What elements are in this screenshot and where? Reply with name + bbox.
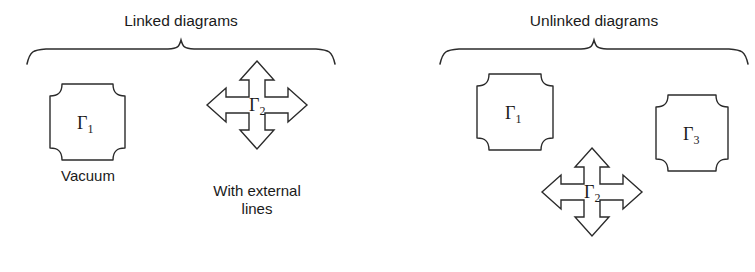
caption-with-external-line1: With external <box>213 182 301 199</box>
brace-unlinked <box>440 40 748 64</box>
caption-vacuum: Vacuum <box>61 167 115 184</box>
diagram-linked-gamma1: Γ1 <box>50 84 125 160</box>
group-title-linked: Linked diagrams <box>124 12 238 29</box>
group-title-unlinked: Unlinked diagrams <box>530 12 659 29</box>
figure-canvas: Linked diagrams Γ1 Vacuum Γ2 With extern… <box>0 0 755 272</box>
diagram-unlinked-gamma2: Γ2 <box>542 148 642 236</box>
group-linked: Linked diagrams Γ1 Vacuum Γ2 With extern… <box>27 12 335 217</box>
diagram-unlinked-gamma3: Γ3 <box>656 95 728 171</box>
group-unlinked: Unlinked diagrams Γ1 Γ3 Γ2 <box>440 12 748 236</box>
diagram-linked-gamma2: Γ2 <box>207 61 307 149</box>
diagram-unlinked-gamma1: Γ1 <box>477 74 553 150</box>
brace-linked <box>27 40 335 64</box>
caption-with-external-line2: lines <box>242 200 273 217</box>
physics-diagram-svg: Linked diagrams Γ1 Vacuum Γ2 With extern… <box>0 0 755 272</box>
